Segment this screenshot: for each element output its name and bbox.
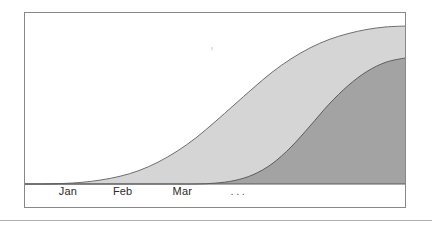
- paper-speck-artifact: [211, 47, 213, 50]
- chart-frame: Jan Feb Mar ...: [24, 12, 406, 208]
- chart-screenshot: Jan Feb Mar ...: [0, 0, 432, 226]
- s-curve-area-chart: [25, 13, 405, 207]
- bottom-divider-rule: [0, 220, 432, 221]
